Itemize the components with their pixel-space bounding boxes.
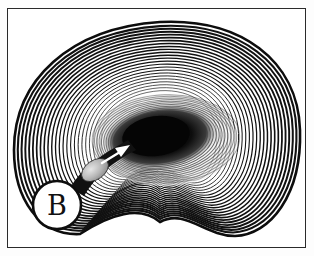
disc-illustration: B	[0, 0, 314, 256]
disc-drawing: B	[0, 0, 314, 256]
figure-label-text: B	[47, 190, 67, 221]
figure-label: B	[33, 181, 81, 229]
